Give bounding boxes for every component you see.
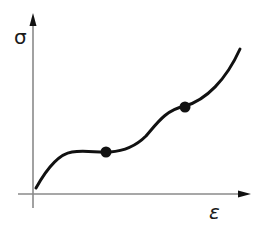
upper-inflection-point [180, 102, 191, 113]
stress-strain-diagram: σ ε [0, 0, 264, 227]
x-axis [18, 191, 251, 198]
y-axis-arrow-icon [30, 13, 37, 26]
x-axis-arrow-icon [238, 191, 251, 198]
y-axis [30, 13, 37, 208]
x-axis-label: ε [209, 200, 220, 224]
plateau-point [101, 147, 112, 158]
y-axis-label: σ [14, 25, 27, 49]
stress-strain-curve [36, 49, 240, 188]
